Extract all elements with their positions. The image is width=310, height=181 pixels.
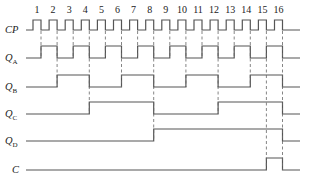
waveform-qa <box>26 46 300 58</box>
clock-pulse-number: 4 <box>83 4 88 15</box>
clock-pulse-number: 5 <box>99 4 104 15</box>
clock-pulse-number: 13 <box>225 4 235 15</box>
signal-label-qd: QD <box>5 135 18 149</box>
waveform-qb <box>26 75 300 87</box>
signal-label-qa: QA <box>5 52 18 66</box>
waveform-qd <box>26 129 300 141</box>
clock-pulse-number: 10 <box>177 4 187 15</box>
clock-pulse-number: 2 <box>51 4 56 15</box>
waveform-c <box>26 158 300 170</box>
clock-pulse-number: 16 <box>274 4 284 15</box>
signal-label-qc: QC <box>5 108 18 122</box>
clock-pulse-number: 9 <box>163 4 168 15</box>
waveform-cp <box>26 20 300 30</box>
clock-pulse-number: 12 <box>209 4 219 15</box>
waveform-qc <box>26 102 300 114</box>
clock-pulse-number: 11 <box>193 4 203 15</box>
clock-pulse-number: 1 <box>35 4 40 15</box>
clock-pulse-number: 7 <box>131 4 136 15</box>
timing-diagram: CPQAQBQCQDC 12345678910111213141516 <box>0 0 310 181</box>
clock-pulse-number: 15 <box>257 4 267 15</box>
signal-label-cp: CP <box>5 24 19 35</box>
clock-pulse-number: 14 <box>241 4 251 15</box>
signal-label-c: C <box>12 164 20 175</box>
signal-label-qb: QB <box>5 81 18 95</box>
clock-pulse-number: 6 <box>115 4 120 15</box>
clock-pulse-number: 8 <box>147 4 152 15</box>
clock-pulse-number: 3 <box>67 4 72 15</box>
